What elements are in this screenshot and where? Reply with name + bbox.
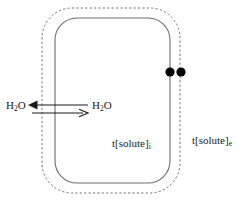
water-external-formula: H [6, 99, 14, 111]
solute-external-subscript: e [229, 139, 232, 148]
solute-dot-outer [176, 67, 185, 76]
label-water-external: H2O [6, 100, 26, 111]
solute-internal-subscript: i [149, 142, 151, 151]
water-internal-formula-tail: O [104, 99, 112, 111]
cell-membrane-solid [55, 18, 170, 183]
solute-external-text: t[solute] [192, 134, 229, 146]
water-inward-arrow [32, 109, 88, 117]
solute-internal-text: t[solute] [112, 137, 149, 149]
water-external-subscript: 2 [14, 104, 18, 113]
diagram-canvas: H2O H2O t[solute]i t[solute]e [0, 0, 236, 206]
water-internal-formula: H [92, 99, 100, 111]
water-internal-subscript: 2 [100, 104, 104, 113]
solute-dot-inner [165, 67, 174, 76]
label-solute-internal: t[solute]i [112, 138, 151, 149]
label-solute-external: t[solute]e [192, 135, 232, 146]
water-external-formula-tail: O [18, 99, 26, 111]
water-outward-arrow [28, 101, 88, 110]
label-water-internal: H2O [92, 100, 112, 111]
osmosis-diagram-graphics [0, 0, 236, 206]
